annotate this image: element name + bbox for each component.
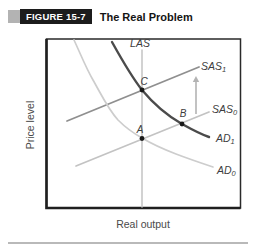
curve-label-AD0: AD0 <box>216 164 237 178</box>
y-axis-label: Price level <box>24 101 36 149</box>
sas-shift-arrowhead <box>193 76 199 82</box>
curve-label-AD1: AD1 <box>215 132 235 146</box>
point-label-B: B <box>180 108 187 119</box>
point-C <box>140 88 145 93</box>
chart-canvas: LASSAS1SAS0AD1AD0ABC Price level Real ou… <box>0 0 256 249</box>
curve-label-SAS0: SAS0 <box>212 103 238 117</box>
bottom-rule <box>8 242 248 244</box>
curve-AD0 <box>74 40 213 167</box>
curve-AD1 <box>112 42 209 137</box>
curve-label-LAS: LAS <box>130 37 150 49</box>
x-axis-label: Real output <box>116 218 170 230</box>
curve-label-SAS1: SAS1 <box>201 60 226 74</box>
figure-panel: FIGURE 15-7 The Real Problem LASSAS1SAS0… <box>0 0 256 249</box>
curves-layer: LASSAS1SAS0AD1AD0ABC <box>67 37 238 207</box>
point-A <box>140 136 145 141</box>
point-label-C: C <box>140 76 148 87</box>
point-label-A: A <box>136 124 144 135</box>
point-B <box>180 122 185 127</box>
